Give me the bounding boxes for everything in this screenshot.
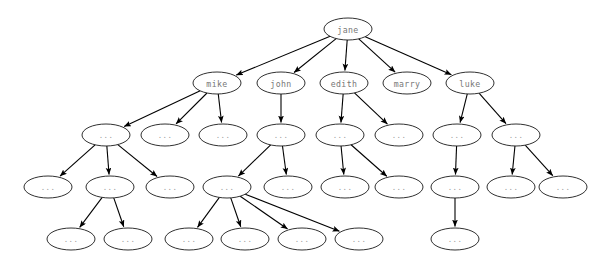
node-edith[interactable]: edith [320,72,368,94]
node-label: ... [220,183,235,192]
node-label: ... [238,235,253,244]
node-placeholder-n2_0[interactable]: ... [82,124,130,146]
edge-n1_4-to-n2_6 [460,94,467,123]
node-placeholder-n2_1[interactable]: ... [141,124,189,146]
node-label: ... [338,183,353,192]
node-luke[interactable]: luke [446,72,494,94]
node-label: ... [448,235,463,244]
node-placeholder-n2_3[interactable]: ... [257,124,305,146]
node-label: ... [504,183,519,192]
node-label: luke [459,79,480,89]
node-placeholder-n2_5[interactable]: ... [375,124,423,146]
node-label: ... [121,235,136,244]
node-placeholder-n3_8[interactable]: ... [487,176,535,198]
node-label: ... [281,183,296,192]
node-placeholder-n3_2[interactable]: ... [146,176,194,198]
node-label: mike [206,79,227,89]
node-placeholder-n4_2[interactable]: ... [165,228,213,250]
node-placeholder-n4_3[interactable]: ... [221,228,269,250]
edge-n0_0-to-n1_4 [365,37,451,75]
node-label: ... [333,131,348,140]
node-placeholder-n3_6[interactable]: ... [375,176,423,198]
node-jane[interactable]: jane [324,18,372,40]
node-placeholder-n2_6[interactable]: ... [433,124,481,146]
edge-n1_2-to-n2_4 [341,94,343,123]
edge-n0_0-to-n1_1 [294,39,336,73]
node-label: ... [352,235,367,244]
node-placeholder-n2_2[interactable]: ... [199,124,247,146]
node-label: ... [103,183,118,192]
node-placeholder-n4_0[interactable]: ... [47,228,95,250]
node-label: ... [392,131,407,140]
node-placeholder-n3_1[interactable]: ... [86,176,134,198]
node-placeholder-n3_9[interactable]: ... [539,176,587,198]
edge-n0_0-to-n1_3 [359,39,395,72]
edge-n1_0-to-n2_2 [218,94,221,123]
diagram-canvas: janemikejohnedithmarryluke..............… [0,0,615,272]
node-label: ... [216,131,231,140]
node-placeholder-n3_0[interactable]: ... [24,176,72,198]
edge-n3_3-to-n4_2 [198,197,220,227]
node-label: ... [163,183,178,192]
node-label: ... [392,183,407,192]
node-placeholder-n3_5[interactable]: ... [321,176,369,198]
node-label: ... [556,183,571,192]
node-placeholder-n4_1[interactable]: ... [104,228,152,250]
edge-n3_3-to-n4_3 [231,198,241,227]
edge-n1_4-to-n2_7 [479,93,506,123]
edge-n3_1-to-n4_1 [114,198,124,227]
node-mike[interactable]: mike [193,72,241,94]
edge-n0_0-to-n1_0 [236,36,330,75]
node-john[interactable]: john [257,72,305,94]
node-label: ... [450,131,465,140]
nodes-layer: janemikejohnedithmarryluke..............… [24,18,587,250]
node-label: edith [331,79,358,89]
node-placeholder-n3_3[interactable]: ... [203,176,251,198]
node-label: ... [274,131,289,140]
node-label: ... [158,131,173,140]
edge-n2_7-to-n3_8 [512,146,515,175]
node-label: marry [394,79,421,89]
node-marry[interactable]: marry [383,72,431,94]
edge-n2_6-to-n3_7 [455,146,456,175]
node-label: ... [509,131,524,140]
node-placeholder-n4_5[interactable]: ... [335,228,383,250]
node-label: john [270,79,291,89]
node-label: ... [41,183,56,192]
edge-n2_3-to-n3_3 [238,145,270,176]
edge-n1_0-to-n2_0 [124,91,200,127]
edge-n0_0-to-n1_2 [345,40,347,71]
edge-n2_3-to-n3_4 [282,146,286,175]
node-label: ... [448,183,463,192]
node-label: ... [295,235,310,244]
node-placeholder-n4_6[interactable]: ... [431,228,479,250]
node-label: ... [64,235,79,244]
edge-n1_2-to-n2_5 [354,93,387,124]
node-placeholder-n2_4[interactable]: ... [316,124,364,146]
node-placeholder-n3_7[interactable]: ... [431,176,479,198]
edge-n2_4-to-n3_6 [351,145,387,176]
edge-n2_0-to-n3_0 [60,145,95,176]
edge-n2_0-to-n3_2 [118,145,157,177]
edge-n1_0-to-n2_1 [176,93,207,124]
node-placeholder-n2_7[interactable]: ... [492,124,540,146]
node-label: ... [99,131,114,140]
tree-graph: janemikejohnedithmarryluke..............… [0,0,615,272]
node-placeholder-n3_4[interactable]: ... [264,176,312,198]
edge-n3_1-to-n4_0 [80,197,103,227]
edge-n2_0-to-n3_1 [107,146,109,175]
edge-n2_4-to-n3_5 [341,146,344,175]
node-label: ... [182,235,197,244]
edge-n2_7-to-n3_9 [525,145,553,176]
node-placeholder-n4_4[interactable]: ... [278,228,326,250]
edge-n3_3-to-n4_5 [245,194,339,231]
node-label: jane [337,25,358,35]
